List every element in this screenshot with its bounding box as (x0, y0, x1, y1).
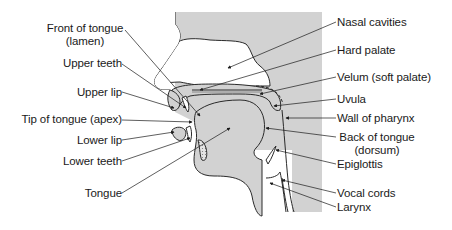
label-vocal-cords: Vocal cords (337, 187, 395, 200)
label-upper-lip: Upper lip (40, 86, 122, 99)
lower-teeth-shape (186, 126, 192, 142)
label-lower-teeth: Lower teeth (40, 155, 122, 168)
label-subtext: (lamen) (45, 35, 125, 48)
label-lower-lip: Lower lip (40, 134, 122, 147)
label-text: Back of tongue (337, 131, 417, 144)
label-tongue: Tongue (40, 187, 122, 200)
label-larynx: Larynx (337, 201, 371, 214)
label-upper-teeth: Upper teeth (40, 57, 122, 70)
larynx-shape (266, 172, 288, 212)
label-uvula: Uvula (337, 93, 366, 106)
label-nasal-cavities: Nasal cavities (337, 16, 407, 29)
lower-lip-shape (172, 127, 186, 140)
vocal-tract-diagram: Front of tongue (lamen) Upper teeth Uppe… (0, 0, 452, 230)
label-velum: Velum (soft palate) (337, 71, 431, 84)
label-hard-palate: Hard palate (337, 44, 395, 57)
label-text: Front of tongue (45, 22, 125, 35)
label-subtext: (dorsum) (337, 144, 417, 157)
label-epiglottis: Epiglottis (337, 158, 383, 171)
label-back-of-tongue: Back of tongue (dorsum) (337, 131, 417, 157)
label-front-of-tongue: Front of tongue (lamen) (45, 22, 125, 48)
label-wall-of-pharynx: Wall of pharynx (337, 112, 414, 125)
label-tip-of-tongue: Tip of tongue (apex) (0, 113, 122, 126)
